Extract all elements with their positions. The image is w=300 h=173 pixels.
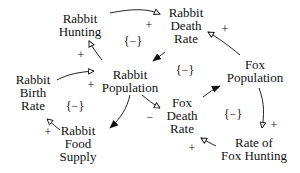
sign-population-to-foxdeath: − xyxy=(147,111,154,123)
edge-population-to-food xyxy=(110,95,130,128)
node-rate-of-fox-hunting: Rate of Fox Hunting xyxy=(221,136,287,162)
edge-hunting-to-death xyxy=(110,10,160,14)
node-fox-death-rate: Fox Death Rate xyxy=(166,96,197,135)
edge-population-to-hunting xyxy=(89,41,102,60)
edge-population-to-foxdeath xyxy=(142,95,160,108)
node-rabbit-death-rate: Rabbit Death Rate xyxy=(169,6,204,45)
node-rabbit-food-supply: Rabbit Food Supply xyxy=(60,124,97,163)
sign-foxpop-to-hunting: + xyxy=(271,119,278,131)
sign-population-to-hunting: + xyxy=(78,49,85,61)
node-rabbit-birth-rate: Rabbit Birth Rate xyxy=(16,73,51,112)
loop-label-rabbit-hunting: {−} xyxy=(124,35,142,47)
loop-label-fox-hunting: {−} xyxy=(224,108,242,120)
edge-death-to-population xyxy=(153,52,165,61)
sign-foxhunting-to-foxdeath: + xyxy=(189,142,196,154)
loop-label-food-supply: {−} xyxy=(66,100,84,112)
sign-birth-to-population: + xyxy=(88,79,95,91)
node-fox-population: Fox Population xyxy=(227,58,283,84)
edge-foxpop-to-hunting xyxy=(259,88,264,128)
edge-foxdeath-to-foxpop xyxy=(203,86,220,97)
causal-loop-diagram: Rabbit Hunting Rabbit Death Rate Fox Pop… xyxy=(0,0,300,173)
node-rabbit-population: Rabbit Population xyxy=(102,68,158,94)
loop-label-predator-prey: {−} xyxy=(176,64,194,76)
sign-food-to-birth: + xyxy=(45,126,52,138)
edge-foxhunting-to-foxdeath xyxy=(201,138,216,146)
sign-hunting-to-death: + xyxy=(146,19,153,31)
sign-fox-to-death: + xyxy=(222,23,229,35)
node-rabbit-hunting: Rabbit Hunting xyxy=(59,12,102,38)
